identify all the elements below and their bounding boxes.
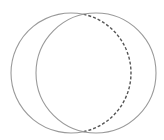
overlapping-circles-diagram [0,0,164,140]
background [0,0,164,140]
